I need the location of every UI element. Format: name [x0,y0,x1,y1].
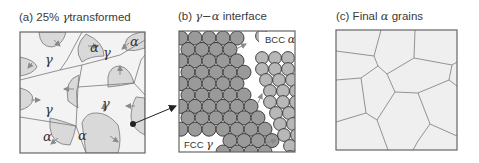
fcc-atom [174,122,188,136]
fcc-gamma-label: FCC γ [184,138,213,151]
alpha-label: α [78,128,87,143]
fcc-atom [188,122,202,136]
bcc-atom [290,96,303,109]
panel-b-atoms: BCC α FCC γ [174,30,303,163]
bcc-alpha-label: BCC α [265,33,296,46]
diagram-canvas: γ α γ α γ γ α α BCC α FCC γ [0,0,479,163]
alpha-label: α [130,34,139,49]
gamma-label: γ [45,52,53,67]
bcc-atom [287,118,300,131]
panel-c-grains [336,30,457,150]
gamma-label: γ [45,102,53,117]
alpha-label: α [90,40,99,55]
panel-a-microstructure: γ α γ α γ γ α α [20,32,145,153]
bcc-atom [286,74,299,87]
gamma-label: γ [102,96,110,111]
gamma-label: γ [103,45,111,60]
bcc-atom [291,129,304,142]
bcc-atom [290,85,303,98]
alpha-label: α [43,129,52,144]
fcc-atom [202,122,216,136]
